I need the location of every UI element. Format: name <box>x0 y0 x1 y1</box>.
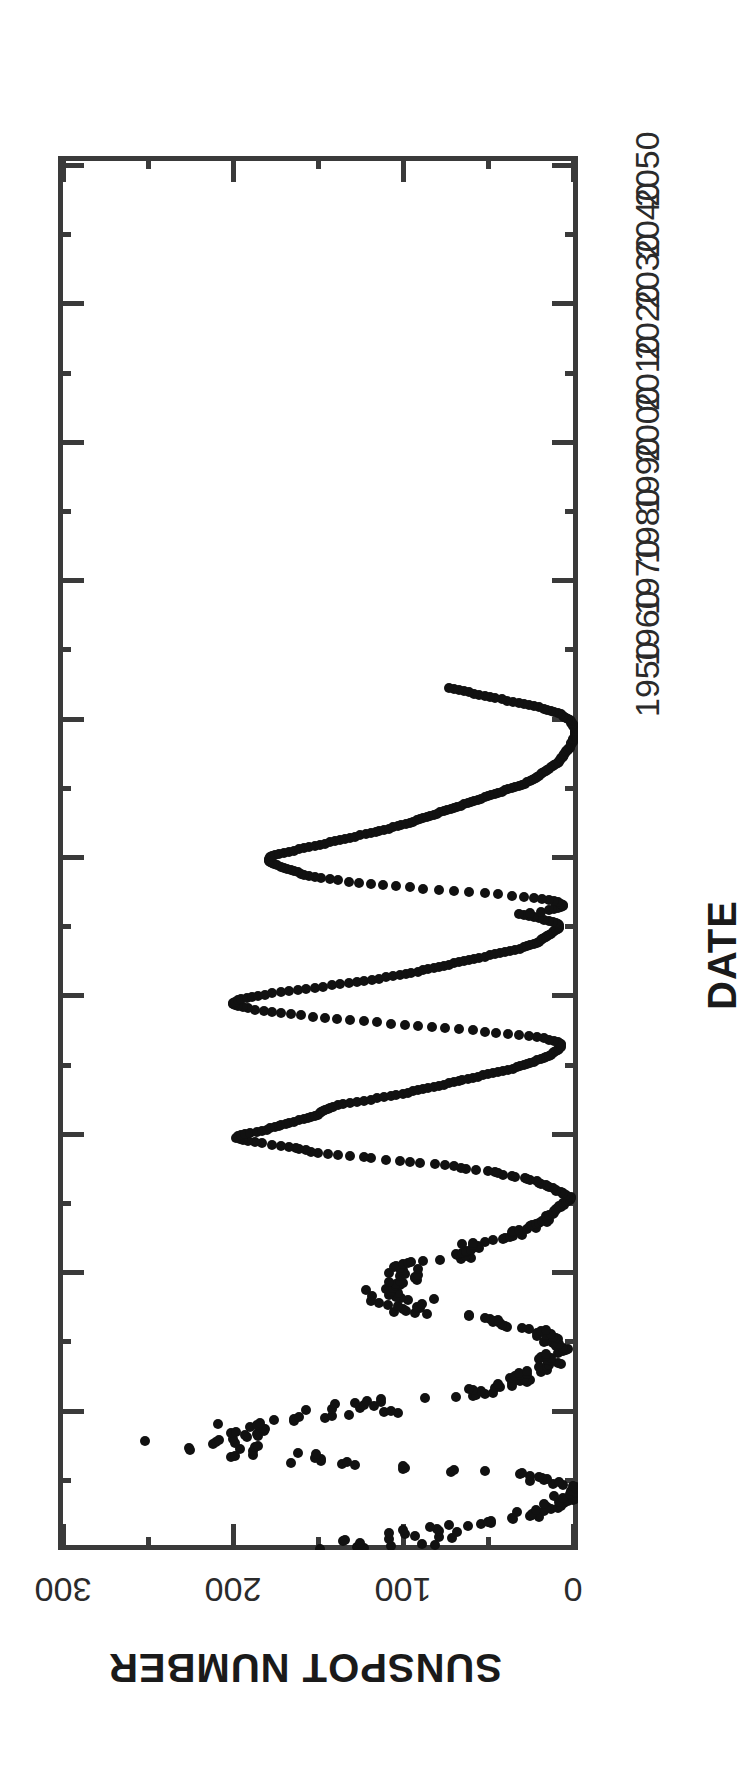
data-point <box>405 1157 415 1167</box>
data-point <box>372 1017 382 1027</box>
data-point <box>296 1010 306 1020</box>
data-point <box>454 1024 464 1034</box>
data-point <box>514 909 524 919</box>
date-axis-tick <box>552 301 578 306</box>
data-point <box>514 1030 524 1040</box>
date-axis-tick <box>58 1063 71 1068</box>
data-point <box>320 1013 330 1023</box>
data-point <box>267 1140 277 1150</box>
data-point <box>452 1527 462 1537</box>
date-axis-tick-label: 2050 <box>628 131 667 207</box>
date-axis-tick <box>58 855 84 860</box>
date-axis-tick <box>58 232 71 237</box>
data-point <box>435 1255 445 1265</box>
data-point <box>413 1021 423 1031</box>
data-point <box>464 1310 474 1320</box>
sunspot-number-axis-tick <box>146 1537 151 1550</box>
sunspot-number-axis-tick <box>571 1524 576 1550</box>
data-point <box>464 887 474 897</box>
sunspot-number-axis-tick <box>486 156 491 169</box>
rotated-plot-canvas <box>58 156 578 1550</box>
data-point <box>418 1256 428 1266</box>
data-point <box>267 1007 277 1017</box>
data-point <box>420 1393 430 1403</box>
sunspot-number-axis-tick-label: 300 <box>33 1570 93 1609</box>
date-axis-tick <box>58 509 71 514</box>
data-point <box>464 1384 474 1394</box>
data-point <box>400 1020 410 1030</box>
data-point <box>359 1152 369 1162</box>
date-axis-tick <box>565 232 578 237</box>
data-point <box>520 1173 530 1183</box>
data-point <box>395 1156 405 1166</box>
data-point <box>429 1294 439 1304</box>
data-point <box>362 1396 372 1406</box>
date-axis-tick <box>565 786 578 791</box>
data-point <box>384 1277 394 1287</box>
data-point <box>355 1538 365 1548</box>
data-point <box>444 683 454 693</box>
data-point <box>457 1239 467 1249</box>
data-point <box>366 879 376 889</box>
date-axis-tick <box>552 440 578 445</box>
data-point <box>468 1238 478 1248</box>
data-point <box>539 1499 549 1509</box>
data-point <box>480 1313 490 1323</box>
data-point <box>293 1448 303 1458</box>
data-point <box>449 1465 459 1475</box>
data-point <box>344 1410 354 1420</box>
data-point <box>345 1015 355 1025</box>
data-point <box>430 1159 440 1169</box>
data-point <box>276 1008 286 1018</box>
data-point <box>549 1491 559 1501</box>
data-point <box>381 1155 391 1165</box>
data-point <box>345 1151 355 1161</box>
sunspot-number-axis-tick <box>231 1524 236 1550</box>
date-axis-tick <box>58 301 84 306</box>
data-point <box>378 880 388 890</box>
data-point <box>286 1458 296 1468</box>
sunspot-number-axis-title: SUNSPOT NUMBER <box>108 1645 502 1690</box>
data-point <box>410 1531 420 1541</box>
data-point <box>468 1025 478 1035</box>
data-point <box>525 908 535 918</box>
sunspot-number-axis-tick <box>61 1524 66 1550</box>
data-point <box>493 1379 503 1389</box>
data-point <box>350 1398 360 1408</box>
data-point <box>405 882 415 892</box>
data-point <box>213 1419 223 1429</box>
date-axis-tick <box>58 924 71 929</box>
plot-area <box>58 156 578 1550</box>
data-point <box>140 1436 150 1446</box>
sunspot-number-axis-tick-label: 200 <box>203 1570 263 1609</box>
date-axis-tick <box>58 647 71 652</box>
data-point <box>507 1171 517 1181</box>
data-point <box>286 1009 296 1019</box>
sunspot-number-axis-tick <box>401 156 406 182</box>
date-axis-tick <box>58 1478 71 1483</box>
data-point <box>269 1415 279 1425</box>
data-point <box>214 1435 224 1445</box>
data-point <box>480 1027 490 1037</box>
data-point <box>519 892 529 902</box>
data-point <box>493 1315 503 1325</box>
data-point <box>440 1160 450 1170</box>
data-point <box>415 1158 425 1168</box>
data-point <box>517 1323 527 1333</box>
date-axis-tick <box>58 1132 84 1137</box>
data-point <box>308 1012 318 1022</box>
data-point <box>534 1472 544 1482</box>
data-point <box>417 1299 427 1309</box>
data-point <box>440 1023 450 1033</box>
date-axis-tick <box>552 578 578 583</box>
data-point <box>471 1165 481 1175</box>
data-point <box>480 1466 490 1476</box>
date-axis-tick <box>58 717 84 722</box>
sunspot-number-axis-tick <box>316 156 321 169</box>
data-point <box>488 1235 498 1245</box>
date-axis-tick <box>58 1201 71 1206</box>
date-axis-tick <box>58 371 71 376</box>
data-point <box>434 885 444 895</box>
sunspot-number-axis-tick <box>146 156 151 169</box>
data-point <box>325 874 335 884</box>
